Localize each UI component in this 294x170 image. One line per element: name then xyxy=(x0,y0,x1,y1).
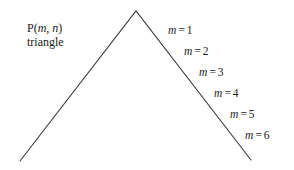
m-value: 6 xyxy=(264,129,270,141)
p-m-n-label-line: P(m, n) xyxy=(27,22,64,36)
variable-m: m xyxy=(199,66,208,78)
equals-sign: = xyxy=(177,24,187,36)
triangle-word-label: triangle xyxy=(27,36,64,50)
m-label-6: m=6 xyxy=(245,129,270,143)
m-label-2: m=2 xyxy=(184,45,209,59)
m-value: 1 xyxy=(187,24,193,36)
m-value: 2 xyxy=(203,45,209,57)
m-label-3: m=3 xyxy=(199,66,224,80)
m-label-4: m=4 xyxy=(214,87,239,101)
m-value: 4 xyxy=(233,87,239,99)
m-value: 3 xyxy=(218,66,224,78)
variable-m: m xyxy=(184,45,193,57)
m-label-5: m=5 xyxy=(230,108,255,122)
m-value: 5 xyxy=(249,108,255,120)
variable-m: m xyxy=(245,129,254,141)
equals-sign: = xyxy=(254,129,264,141)
equals-sign: = xyxy=(208,66,218,78)
variable-n: n xyxy=(52,21,58,35)
variable-m: m xyxy=(230,108,239,120)
equals-sign: = xyxy=(193,45,203,57)
variable-m: m xyxy=(168,24,177,36)
equals-sign: = xyxy=(223,87,233,99)
m-label-1: m=1 xyxy=(168,24,193,38)
p-m-n-triangle-label: P(m, n) triangle xyxy=(27,22,64,49)
figure-canvas: P(m, n) triangle m=1 m=2 m=3 m=4 m=5 m=6 xyxy=(0,0,294,170)
variable-m: m xyxy=(214,87,223,99)
equals-sign: = xyxy=(239,108,249,120)
